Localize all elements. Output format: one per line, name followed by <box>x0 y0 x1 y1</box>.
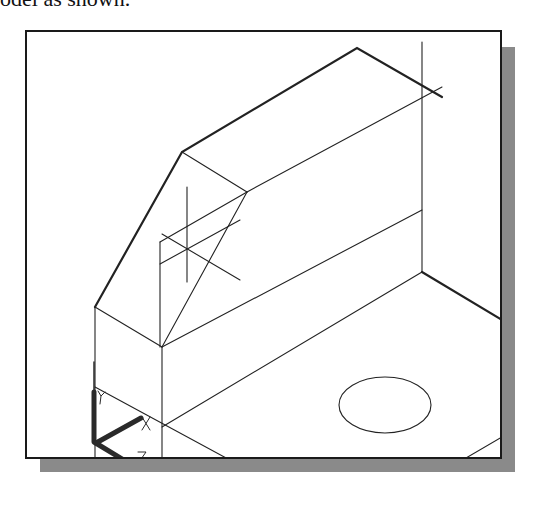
caption-text: odel as shown. <box>0 0 130 12</box>
ucs-icon <box>94 362 150 457</box>
cad-viewport[interactable] <box>25 30 502 459</box>
wireframe-model <box>27 32 500 457</box>
model-edges <box>95 42 500 457</box>
